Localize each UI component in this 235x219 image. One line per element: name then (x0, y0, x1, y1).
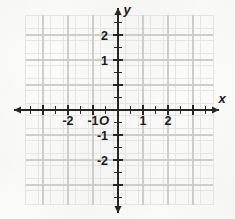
x-tick-label-pos1: 1 (140, 114, 147, 128)
coordinate-plane-figure: -2 -1 1 2 2 1 -1 -2 O x y (0, 0, 235, 219)
y-tick-label-neg2: -2 (97, 154, 108, 168)
y-axis-arrow-up (114, 8, 121, 15)
y-tick-label-pos2: 2 (101, 29, 108, 43)
y-axis-name-label: y (122, 2, 131, 17)
x-tick-label-pos2: 2 (165, 114, 172, 128)
x-tick-label-neg2: -2 (62, 114, 73, 128)
y-axis-arrow-down (114, 206, 121, 213)
x-axis-arrow-right (212, 106, 219, 113)
x-tick-label-neg1: -1 (87, 114, 98, 128)
coordinate-plane-svg: -2 -1 1 2 2 1 -1 -2 O x y (0, 0, 235, 219)
y-axis-tick-labels: 2 1 -1 -2 (97, 29, 108, 168)
y-tick-label-pos1: 1 (101, 54, 108, 68)
origin-label: O (99, 113, 109, 128)
x-axis-arrow-left (14, 106, 21, 113)
x-axis-name-label: x (217, 91, 226, 106)
y-tick-label-neg1: -1 (97, 129, 108, 143)
